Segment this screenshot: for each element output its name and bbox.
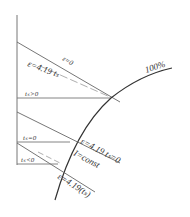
ts-negative-label: tₛ<0 bbox=[21, 156, 35, 164]
lower-line-label: ε=4.19(tₛ) bbox=[56, 171, 93, 199]
ts-positive-label: tₛ>0 bbox=[25, 90, 39, 98]
lower-dashed-line bbox=[38, 152, 60, 163]
ts-zero-label: tₛ=0 bbox=[23, 134, 37, 142]
eps-zero-label: ε=0 bbox=[61, 55, 75, 68]
eps-ts-label: ε=4.19 tₛ bbox=[26, 58, 61, 79]
psychrometric-diagram: ε=0 ε=4.19 tₛ 100% tₛ>0 tₛ=0 tₛ<0 ε=4.19… bbox=[0, 0, 190, 217]
